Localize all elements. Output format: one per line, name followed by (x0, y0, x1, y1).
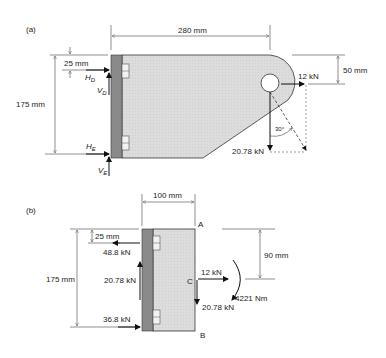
dim-top-offset-a: 25 mm (64, 59, 89, 68)
force-top: 48.8 kN (103, 248, 131, 257)
load-vertical-b: 20.78 kN (202, 303, 234, 312)
figure-b-label: (b) (26, 206, 36, 215)
load-horizontal-b: 12 kN (201, 268, 222, 277)
dim-height-a: 175 mm (16, 100, 45, 109)
dim-C-offset: 90 mm (264, 251, 289, 260)
reaction-VD: VD (97, 86, 107, 96)
force-bottom: 36.8 kN (103, 315, 131, 324)
point-C: C (187, 277, 193, 286)
dim-pin-offset-a: 50 mm (343, 66, 368, 75)
load-vertical-a: 20.78 kN (232, 147, 264, 156)
moment-label: 4221 Nm (235, 294, 268, 303)
dim-width-a: 280 mm (178, 26, 207, 35)
bracket-body (122, 55, 295, 158)
force-shear: 20.78 kN (104, 276, 136, 285)
dim-top-offset-b: 25 mm (95, 232, 120, 241)
figure-a-label: (a) (26, 25, 36, 34)
reaction-VE: VE (98, 166, 108, 176)
dim-height-b: 175 mm (46, 275, 75, 284)
figure-b: (b) 100 mm A B C 25 mm 175 mm 48.8 kN 20… (26, 191, 289, 340)
dim-width-b: 100 mm (153, 191, 182, 200)
load-horizontal-a: 12 kN (298, 72, 319, 81)
reaction-HD: HD (85, 73, 96, 83)
angle-label: 30° (275, 126, 285, 132)
reaction-HE: HE (86, 142, 97, 152)
wall-plate-b (142, 229, 153, 331)
pin-hole (261, 74, 279, 92)
point-A: A (198, 220, 204, 229)
point-B: B (200, 331, 205, 340)
free-body-diagram-figure: (a) 280 mm 25 mm 175 mm HD VD (0, 0, 386, 358)
figure-a: (a) 280 mm 25 mm 175 mm HD VD (16, 25, 368, 176)
wall-plate (111, 55, 122, 158)
